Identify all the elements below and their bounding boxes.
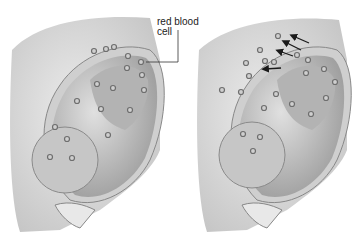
- fetus-illustration-right: [179, 0, 359, 233]
- panel-right: [179, 0, 359, 233]
- fetus-illustration-left: [0, 0, 180, 233]
- panel-left: [0, 0, 180, 233]
